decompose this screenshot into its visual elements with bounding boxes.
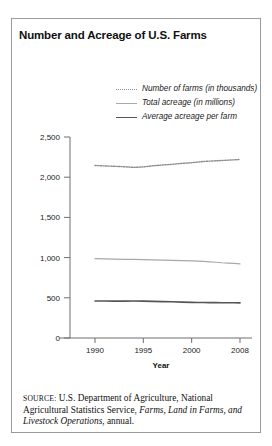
line-chart-svg: 05001,0001,5002,0002,500 199019952000200…	[12, 19, 261, 379]
x-axis-ticks: 1990199520002008	[86, 338, 249, 355]
x-axis-title: Year	[153, 361, 170, 370]
x-axis-tick-label: 1990	[86, 346, 104, 355]
y-axis-tick-label: 2,500	[40, 133, 61, 142]
y-axis-tick-label: 2,000	[40, 173, 61, 182]
figure-panel: Number and Acreage of U.S. Farms Number …	[11, 18, 261, 433]
source-note: SOURCE: U.S. Department of Agriculture, …	[23, 393, 247, 428]
x-axis-tick-label: 2008	[231, 346, 249, 355]
chart-plot-area: 05001,0001,5002,0002,500 199019952000200…	[12, 19, 261, 379]
y-axis-tick-label: 1,500	[40, 213, 61, 222]
chart-series-group	[95, 160, 240, 303]
y-axis-tick-label: 500	[47, 294, 61, 303]
y-axis-ticks: 05001,0001,5002,0002,500	[40, 133, 70, 343]
source-text-after: , annual.	[102, 416, 134, 426]
y-axis-tick-label: 1,000	[40, 254, 61, 263]
source-label: SOURCE:	[23, 394, 56, 403]
chart-series-line	[95, 160, 240, 168]
chart-series-line	[95, 259, 240, 264]
x-axis-tick-label: 1995	[134, 346, 152, 355]
x-axis-tick-label: 2000	[183, 346, 201, 355]
chart-series-line	[95, 301, 240, 303]
